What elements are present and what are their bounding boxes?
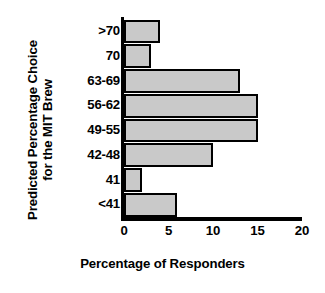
bar-row — [124, 44, 302, 69]
x-axis-line — [121, 217, 302, 220]
bar-chart: Predicted Percentage Choice for the MIT … — [0, 0, 325, 293]
bar — [124, 20, 160, 44]
bar-row — [124, 192, 302, 217]
y-axis-line — [121, 17, 124, 221]
x-axis-tick-label: 20 — [295, 223, 309, 238]
y-axis-tick-label: 42-48 — [56, 143, 120, 168]
bar — [124, 69, 240, 93]
y-axis-title-line-1: Predicted Percentage Choice — [26, 40, 41, 220]
y-axis-title-line-2: for the MIT Brew — [41, 79, 56, 181]
bar — [124, 168, 142, 192]
y-axis-tick-label: 56-62 — [56, 93, 120, 118]
plot-area — [124, 19, 302, 217]
y-axis-tick-labels: >707063-6956-6249-5542-4841<41 — [56, 19, 120, 217]
bar — [124, 44, 151, 68]
y-axis-tick-label: 49-55 — [56, 118, 120, 143]
y-axis-tick-label: 41 — [56, 168, 120, 193]
bar — [124, 119, 258, 143]
x-axis-tick-label: 10 — [206, 223, 220, 238]
x-axis-tick-label: 15 — [250, 223, 264, 238]
bar-row — [124, 118, 302, 143]
y-axis-tick-label: 63-69 — [56, 69, 120, 94]
bar-row — [124, 143, 302, 168]
x-axis-tick-label: 0 — [120, 223, 127, 238]
bar-row — [124, 19, 302, 44]
bar-row — [124, 69, 302, 94]
x-axis-tick-labels: 05101520 — [124, 223, 302, 241]
bar-row — [124, 168, 302, 193]
y-axis-tick-label: <41 — [56, 192, 120, 217]
y-axis-tick-label: >70 — [56, 19, 120, 44]
bar — [124, 193, 177, 217]
bar — [124, 94, 258, 118]
bar — [124, 143, 213, 167]
x-axis-title: Percentage of Responders — [0, 256, 325, 271]
bar-row — [124, 93, 302, 118]
x-axis-tick-label: 5 — [165, 223, 172, 238]
y-axis-tick-label: 70 — [56, 44, 120, 69]
